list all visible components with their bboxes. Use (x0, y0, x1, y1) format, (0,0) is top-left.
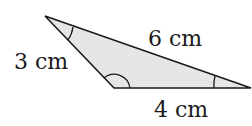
side-label-top: 6 cm (148, 26, 202, 51)
side-label-left: 3 cm (14, 49, 68, 74)
triangle-diagram: 3 cm 6 cm 4 cm (0, 0, 252, 126)
side-label-bottom: 4 cm (154, 97, 208, 122)
